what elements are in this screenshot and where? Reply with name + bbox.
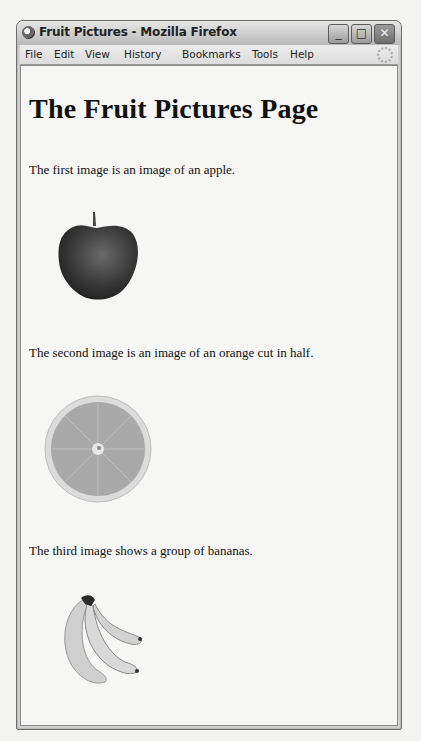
paragraph-apple: The first image is an image of an apple.	[29, 162, 235, 178]
browser-window: Fruit Pictures - Mozilla Firefox _ □ ✕ F…	[16, 20, 402, 730]
menu-file[interactable]: File	[25, 48, 43, 60]
menu-help[interactable]: Help	[290, 48, 314, 60]
menu-history[interactable]: History	[124, 48, 161, 60]
orange-image	[43, 394, 153, 504]
maximize-button[interactable]: □	[351, 24, 372, 44]
page-heading: The Fruit Pictures Page	[29, 93, 318, 125]
firefox-icon	[22, 26, 35, 39]
minimize-button[interactable]: _	[328, 24, 349, 44]
menu-bar: File Edit View History Bookmarks Tools H…	[20, 45, 398, 65]
menu-view[interactable]: View	[85, 48, 110, 60]
throbber-icon	[377, 47, 393, 63]
paragraph-orange: The second image is an image of an orang…	[29, 345, 313, 361]
window-title: Fruit Pictures - Mozilla Firefox	[39, 25, 237, 39]
apple-image	[53, 210, 143, 305]
close-button[interactable]: ✕	[374, 24, 395, 44]
bananas-image	[53, 592, 153, 692]
paragraph-bananas: The third image shows a group of bananas…	[29, 543, 253, 559]
page-content: The Fruit Pictures Page The first image …	[20, 65, 398, 726]
menu-bookmarks[interactable]: Bookmarks	[182, 48, 241, 60]
menu-edit[interactable]: Edit	[54, 48, 74, 60]
menu-tools[interactable]: Tools	[252, 48, 278, 60]
title-bar[interactable]: Fruit Pictures - Mozilla Firefox _ □ ✕	[17, 21, 401, 45]
